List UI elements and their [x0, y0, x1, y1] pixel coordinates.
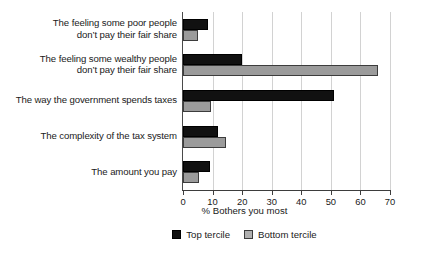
x-tick [301, 191, 302, 195]
gridline [301, 12, 302, 190]
bar-bottom-tercile [183, 101, 211, 112]
x-tick [183, 191, 184, 195]
x-tick [242, 191, 243, 195]
gridline [213, 12, 214, 190]
category-label-line: The complexity of the tax system [41, 130, 178, 141]
chart-legend: Top tercile Bottom tercile [0, 229, 427, 240]
legend-label-bottom-tercile: Bottom tercile [258, 229, 317, 240]
bar-top-tercile [183, 19, 208, 30]
x-tick [272, 191, 273, 195]
category-label: The way the government spends taxes [16, 94, 177, 105]
legend-swatch-top-tercile [172, 230, 181, 239]
bar-bottom-tercile [183, 172, 199, 183]
x-tick [213, 191, 214, 195]
bar-top-tercile [183, 126, 218, 137]
bar-chart: The feeling some poor peopledon’t pay th… [0, 0, 427, 254]
category-label-line: The feeling some poor people [53, 17, 177, 28]
category-label-line: The feeling some wealthy people [40, 53, 177, 64]
gridline [272, 12, 273, 190]
bar-bottom-tercile [183, 137, 226, 148]
x-tick [360, 191, 361, 195]
gridline [242, 12, 243, 190]
category-label: The complexity of the tax system [41, 130, 178, 141]
category-label-line: The way the government spends taxes [16, 94, 177, 105]
legend-item-top-tercile: Top tercile [172, 229, 230, 240]
x-axis-title: % Bothers you most [0, 205, 427, 216]
x-tick [390, 191, 391, 195]
legend-item-bottom-tercile: Bottom tercile [244, 229, 317, 240]
x-tick [331, 191, 332, 195]
bar-bottom-tercile [183, 65, 378, 76]
category-label: The amount you pay [91, 166, 177, 177]
category-label-line: don’t pay their fair share [53, 29, 177, 40]
category-axis-labels: The feeling some poor peopledon’t pay th… [0, 12, 180, 190]
category-label-line: don’t pay their fair share [40, 64, 177, 75]
legend-label-top-tercile: Top tercile [186, 229, 230, 240]
bar-bottom-tercile [183, 30, 198, 41]
category-label: The feeling some wealthy peopledon’t pay… [40, 53, 177, 76]
gridline [390, 12, 391, 190]
bar-top-tercile [183, 54, 242, 65]
bar-top-tercile [183, 161, 210, 172]
gridline [331, 12, 332, 190]
gridline [360, 12, 361, 190]
category-label: The feeling some poor peopledon’t pay th… [53, 17, 177, 40]
category-label-line: The amount you pay [91, 166, 177, 177]
bar-top-tercile [183, 90, 334, 101]
legend-swatch-bottom-tercile [244, 230, 253, 239]
plot-area [183, 12, 390, 190]
